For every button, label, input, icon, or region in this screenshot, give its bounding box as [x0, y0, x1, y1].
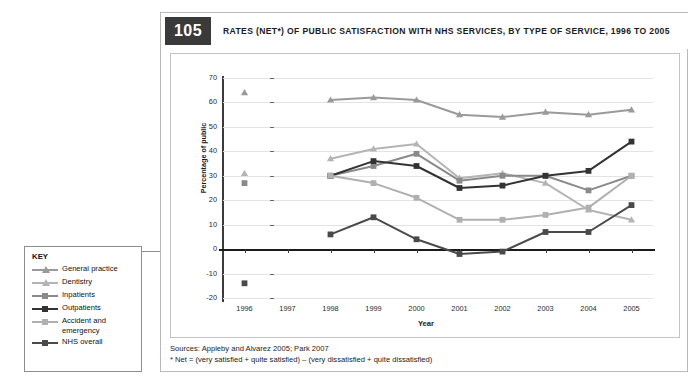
series-layer	[223, 78, 653, 300]
data-point-marker	[586, 168, 592, 174]
data-point-marker	[242, 280, 248, 286]
data-point-marker	[586, 229, 592, 235]
y-axis-tick-label: 70	[177, 74, 217, 82]
data-point-marker	[457, 217, 463, 223]
figure-number-badge: 105	[165, 17, 211, 45]
data-point-marker	[414, 163, 420, 169]
plot-frame: Percentage of public -20-100102030405060…	[170, 53, 680, 338]
sources-line: Sources: Appleby and Alvarez 2005; Park …	[170, 343, 680, 354]
data-point-marker	[328, 232, 334, 238]
data-point-marker	[457, 178, 463, 184]
data-point-marker	[414, 151, 420, 157]
key-swatch-icon	[32, 317, 58, 327]
data-point-marker	[241, 170, 248, 176]
data-point-marker	[629, 173, 635, 179]
x-axis-tick-label: 1999	[353, 304, 395, 313]
data-point-marker	[629, 139, 635, 145]
key-item-label: General practice	[58, 264, 118, 274]
data-point-marker	[371, 180, 377, 186]
series-nhs-overall	[242, 202, 635, 286]
data-point-marker	[241, 89, 248, 95]
x-axis-tick-label: 2000	[396, 304, 438, 313]
x-axis-tick-label: 2005	[611, 304, 653, 313]
data-point-marker	[543, 229, 549, 235]
x-axis-tick-label: 2002	[482, 304, 524, 313]
data-point-marker	[414, 236, 420, 242]
key-item-label: Dentistry	[58, 277, 92, 287]
x-axis-tick-label: 2004	[568, 304, 610, 313]
data-point-marker	[500, 183, 506, 189]
key-item-inpatients: Inpatients	[32, 290, 135, 301]
key-item-label: Accident and emergency	[58, 316, 135, 335]
data-point-marker	[586, 205, 592, 211]
data-point-marker	[457, 185, 463, 191]
key-item-label: Outpatients	[58, 303, 101, 313]
key-item-accident-and-emergency: Accident and emergency	[32, 316, 135, 335]
key-item-label: NHS overall	[58, 337, 103, 347]
chart-legend-key-box: KEY General practiceDentistryInpatientsO…	[24, 246, 142, 372]
key-connector-line	[142, 251, 162, 252]
data-point-marker	[242, 180, 248, 186]
data-point-marker	[371, 214, 377, 220]
y-axis-tick-label: 40	[177, 147, 217, 155]
figure-header: 105 RATES (NET*) OF PUBLIC SATISFACTION …	[161, 13, 689, 49]
data-point-marker	[500, 173, 506, 179]
key-item-general-practice: General practice	[32, 264, 135, 275]
data-point-marker	[457, 251, 463, 257]
figure-footnote: Sources: Appleby and Alvarez 2005; Park …	[170, 343, 680, 365]
y-axis-tick-label: 60	[177, 98, 217, 106]
y-axis-tick-label: 0	[177, 245, 217, 253]
x-axis-tick-label: 1997	[267, 304, 309, 313]
key-swatch-icon	[32, 265, 58, 275]
figure-title: RATES (NET*) OF PUBLIC SATISFACTION WITH…	[223, 26, 670, 37]
figure-panel: 105 RATES (NET*) OF PUBLIC SATISFACTION …	[160, 12, 688, 372]
x-axis-tick-label: 1996	[224, 304, 266, 313]
y-axis-tick-label: -20	[177, 294, 217, 302]
key-items-list: General practiceDentistryInpatientsOutpa…	[32, 264, 135, 348]
key-item-nhs-overall: NHS overall	[32, 337, 135, 348]
series-line	[331, 98, 632, 118]
data-point-marker	[629, 202, 635, 208]
data-point-marker	[543, 173, 549, 179]
figure-screenshot: KEY General practiceDentistryInpatientsO…	[0, 0, 698, 385]
net-definition-line: * Net = (very satisfied + quite satisfie…	[170, 354, 680, 365]
key-swatch-icon	[32, 278, 58, 288]
key-item-dentistry: Dentistry	[32, 277, 135, 288]
data-point-marker	[500, 217, 506, 223]
y-axis-tick-label: -10	[177, 270, 217, 278]
y-axis-tick-label: 10	[177, 221, 217, 229]
y-axis-tick-label: 20	[177, 196, 217, 204]
y-axis-tick-label: 30	[177, 172, 217, 180]
y-axis-tick-label: 50	[177, 123, 217, 131]
data-point-marker	[543, 212, 549, 218]
data-point-marker	[328, 173, 334, 179]
x-axis-tick-label: 2001	[439, 304, 481, 313]
x-axis-tick-label: 2003	[525, 304, 567, 313]
key-swatch-icon	[32, 304, 58, 314]
key-title: KEY	[32, 252, 135, 261]
data-point-marker	[586, 188, 592, 194]
series-general-practice	[241, 89, 635, 120]
data-point-marker	[371, 158, 377, 164]
plot-area: -20-100102030405060701996199719981999200…	[223, 78, 653, 298]
key-item-outpatients: Outpatients	[32, 303, 135, 314]
key-item-label: Inpatients	[58, 290, 95, 300]
data-point-marker	[414, 195, 420, 201]
key-swatch-icon	[32, 338, 58, 348]
x-axis-tick-label: 1998	[310, 304, 352, 313]
key-swatch-icon	[32, 291, 58, 301]
x-axis-title: Year	[171, 319, 681, 328]
data-point-marker	[500, 249, 506, 255]
